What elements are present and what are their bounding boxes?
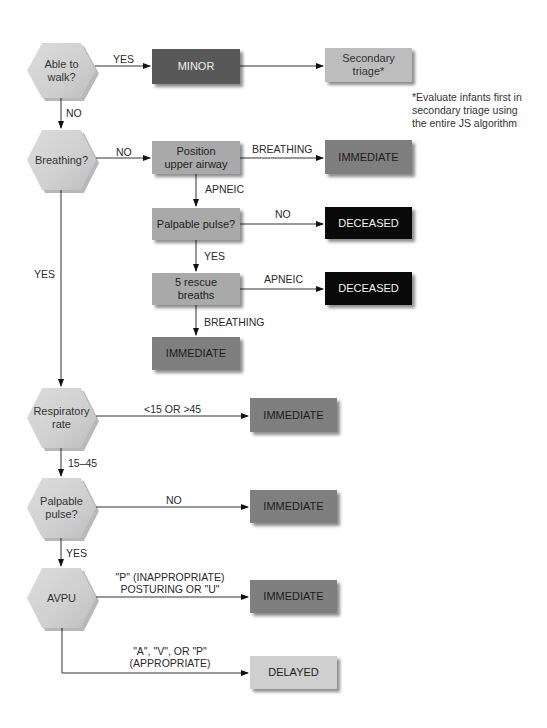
- outcome-label: DECEASED: [338, 282, 399, 295]
- decision-label: Able to walk?: [38, 58, 86, 84]
- footnote-line: *Evaluate infants first in: [412, 91, 522, 104]
- edge-label-avpu-delayed: "A", "V", OR "P" (APPROPRIATE): [110, 645, 230, 669]
- decision-label: AVPU: [47, 592, 76, 605]
- outcome-secondary-triage: Secondary triage*: [325, 48, 412, 82]
- process-position-airway: Position upper airway: [152, 141, 240, 174]
- outcome-label: DELAYED: [268, 666, 319, 679]
- outcome-label: IMMEDIATE: [263, 409, 323, 422]
- outcome-deceased-no-pulse: DECEASED: [325, 207, 412, 239]
- process-label: Palpable pulse?: [157, 218, 235, 231]
- edge-label-line: POSTURING OR "U": [110, 583, 230, 595]
- edge-label-palpable-yes: YES: [66, 547, 87, 559]
- decision-label: Breathing?: [35, 154, 88, 167]
- edge-label-airway-apneic: APNEIC: [205, 183, 244, 195]
- decision-label: Respiratory rate: [32, 405, 92, 431]
- process-rescue-breaths: 5 rescue breaths: [152, 273, 240, 305]
- edge-label-line: "A", "V", OR "P": [110, 645, 230, 657]
- process-palpable-pulse: Palpable pulse?: [152, 208, 240, 240]
- edge-label-rescue-apneic: APNEIC: [264, 273, 303, 285]
- outcome-immediate-resp: IMMEDIATE: [250, 398, 337, 432]
- outcome-label: Secondary triage*: [339, 52, 399, 78]
- outcome-deceased-apneic: DECEASED: [325, 272, 412, 305]
- edge-label-palpable-no: NO: [166, 494, 182, 506]
- footnote: *Evaluate infants first in secondary tri…: [412, 91, 522, 130]
- edge-label-pulse-yes: YES: [204, 250, 225, 262]
- process-label: Position upper airway: [161, 145, 231, 171]
- triage-flowchart: Able to walk? Breathing? Respiratory rat…: [0, 0, 547, 728]
- outcome-immediate-rescue: IMMEDIATE: [152, 337, 240, 370]
- edge-label-line: (APPROPRIATE): [110, 657, 230, 669]
- edge-label-breathing-yes: YES: [34, 268, 55, 280]
- edge-label-walk-no: NO: [66, 107, 82, 119]
- outcome-immediate-pulse: IMMEDIATE: [250, 490, 337, 523]
- outcome-label: MINOR: [178, 60, 215, 73]
- footnote-line: secondary triage using: [412, 104, 522, 117]
- outcome-immediate-avpu: IMMEDIATE: [250, 580, 337, 613]
- outcome-label: IMMEDIATE: [166, 347, 226, 360]
- footnote-line: the entire JS algorithm: [412, 117, 522, 130]
- outcome-immediate-breathing: IMMEDIATE: [325, 140, 412, 174]
- edge-label-resp-out-of-range: <15 OR >45: [144, 403, 201, 415]
- outcome-label: DECEASED: [338, 217, 399, 230]
- process-label: 5 rescue breaths: [171, 276, 221, 302]
- edge-label-breathing-no: NO: [116, 146, 132, 158]
- edge-label-resp-in-range: 15–45: [68, 457, 97, 469]
- edge-label-pulse-no: NO: [275, 208, 291, 220]
- outcome-delayed: DELAYED: [250, 656, 337, 689]
- edge-label-airway-breathing: BREATHING: [252, 143, 312, 155]
- edge-label-line: "P" (INAPPROPRIATE): [110, 571, 230, 583]
- edge-label-rescue-breathing: BREATHING: [204, 316, 264, 328]
- outcome-minor: MINOR: [152, 49, 240, 84]
- outcome-label: IMMEDIATE: [263, 590, 323, 603]
- outcome-label: IMMEDIATE: [263, 500, 323, 513]
- edge-label-avpu-immediate: "P" (INAPPROPRIATE) POSTURING OR "U": [110, 571, 230, 595]
- edge-label-walk-yes: YES: [113, 53, 134, 65]
- decision-label: Palpable pulse?: [37, 495, 87, 521]
- outcome-label: IMMEDIATE: [338, 151, 398, 164]
